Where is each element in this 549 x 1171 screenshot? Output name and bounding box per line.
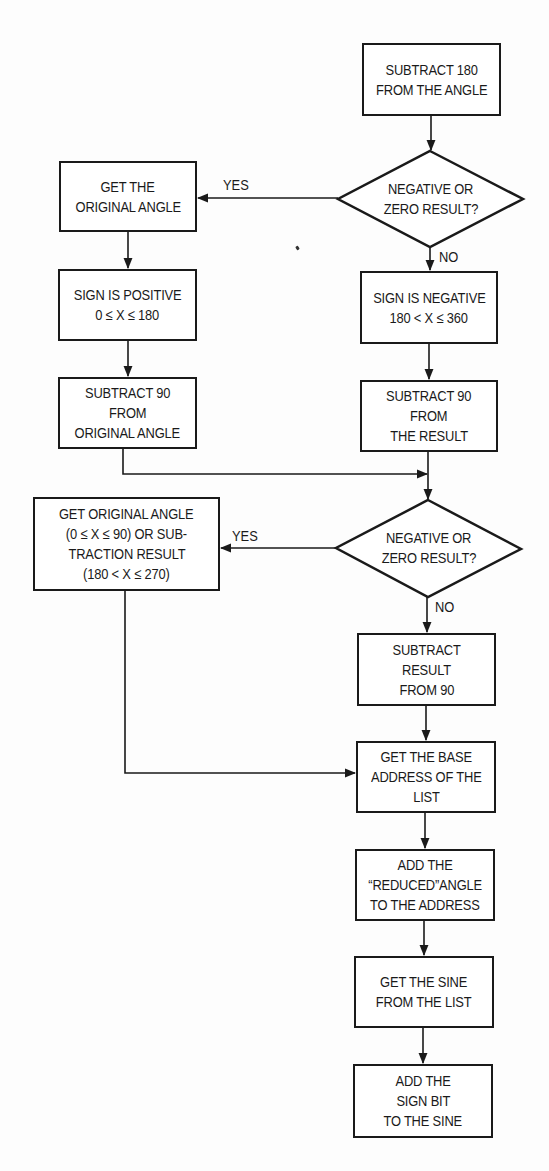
edge-n4-merge xyxy=(123,449,427,474)
edge-label-d2-yes: YES xyxy=(232,527,258,545)
node-text: (0 ≤ X ≤ 90) OR SUB- xyxy=(66,524,187,544)
flowchart-canvas: SUBTRACT 180 FROM THE ANGLE NEGATIVE OR … xyxy=(0,0,549,1171)
edge-n7-n9 xyxy=(125,591,355,773)
node-text: TO THE SINE xyxy=(384,1111,463,1131)
node-text: ORIGINAL ANGLE xyxy=(75,197,180,217)
node-text: GET THE BASE xyxy=(380,747,471,767)
node-get-original-or-subtraction: GET ORIGINAL ANGLE (0 ≤ X ≤ 90) OR SUB- … xyxy=(33,497,220,591)
node-text: ADD THE xyxy=(397,855,452,875)
node-text: RESULT xyxy=(402,660,451,680)
node-add-sign-bit: ADD THE SIGN BIT TO THE SINE xyxy=(353,1064,493,1138)
node-text: “REDUCED”ANGLE xyxy=(368,875,482,895)
node-text: FROM 90 xyxy=(399,680,454,700)
node-text: ORIGINAL ANGLE xyxy=(75,423,180,443)
node-text: ADD THE xyxy=(395,1071,450,1091)
edge-label-d2-no: NO xyxy=(435,598,454,616)
node-text: NEGATIVE OR xyxy=(388,179,473,199)
node-get-original-angle: GET THE ORIGINAL ANGLE xyxy=(59,161,197,232)
node-text: THE RESULT xyxy=(390,426,468,446)
node-text: FROM xyxy=(410,406,447,426)
node-text: 0 ≤ X ≤ 180 xyxy=(96,305,160,325)
node-sign-positive: SIGN IS POSITIVE 0 ≤ X ≤ 180 xyxy=(58,269,197,341)
node-subtract-result-from-90: SUBTRACT RESULT FROM 90 xyxy=(357,633,496,706)
edge-label-d1-yes: YES xyxy=(223,176,249,194)
node-text: SUBTRACT 90 xyxy=(85,383,170,403)
node-subtract-180: SUBTRACT 180 FROM THE ANGLE xyxy=(362,43,501,116)
decision-d1-label: NEGATIVE OR ZERO RESULT? xyxy=(358,175,503,223)
node-text: FROM THE LIST xyxy=(376,992,472,1012)
node-text: FROM xyxy=(109,403,146,423)
edge-label-d1-no: NO xyxy=(439,248,458,266)
node-text: TO THE ADDRESS xyxy=(370,895,480,915)
node-text: SUBTRACT 180 xyxy=(385,60,477,80)
node-get-sine: GET THE SINE FROM THE LIST xyxy=(354,956,494,1028)
node-text: ZERO RESULT? xyxy=(381,548,475,568)
node-text: ZERO RESULT? xyxy=(383,199,477,219)
node-text: SIGN BIT xyxy=(396,1091,450,1111)
node-text: 180 < X ≤ 360 xyxy=(390,308,468,328)
node-get-base-address: GET THE BASE ADDRESS OF THE LIST xyxy=(356,741,496,813)
node-add-reduced-angle: ADD THE “REDUCED”ANGLE TO THE ADDRESS xyxy=(355,849,495,921)
node-text: FROM THE ANGLE xyxy=(376,80,487,100)
node-text: SUBTRACT 90 xyxy=(386,386,471,406)
node-text: NEGATIVE OR xyxy=(386,528,471,548)
node-text: SIGN IS NEGATIVE xyxy=(373,288,485,308)
node-subtract-90-result: SUBTRACT 90 FROM THE RESULT xyxy=(360,380,498,452)
node-text: GET ORIGINAL ANGLE xyxy=(59,504,194,524)
node-text: LIST xyxy=(413,787,440,807)
node-text: GET THE SINE xyxy=(380,972,467,992)
node-text: SIGN IS POSITIVE xyxy=(74,285,182,305)
node-sign-negative: SIGN IS NEGATIVE 180 < X ≤ 360 xyxy=(360,271,498,344)
decision-d2-label: NEGATIVE OR ZERO RESULT? xyxy=(356,524,501,572)
node-text: GET THE xyxy=(101,177,155,197)
node-text: TRACTION RESULT xyxy=(68,544,185,564)
node-text: (180 < X ≤ 270) xyxy=(83,564,170,584)
node-subtract-90-original: SUBTRACT 90 FROM ORIGINAL ANGLE xyxy=(58,377,197,449)
node-text: SUBTRACT xyxy=(392,640,460,660)
node-text: ADDRESS OF THE xyxy=(371,767,482,787)
